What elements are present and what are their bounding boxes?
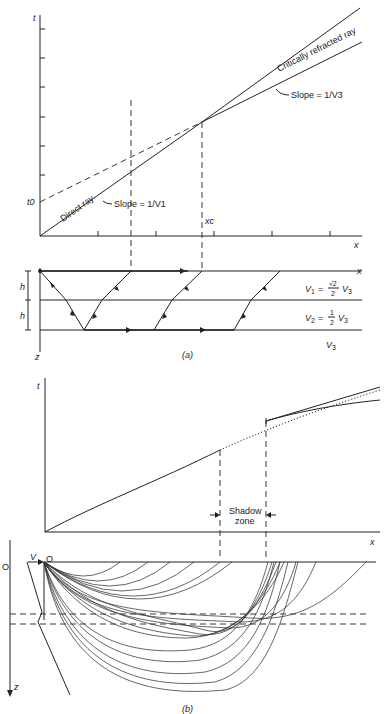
first-arrival-curve: [45, 450, 220, 532]
origin-source-label: O: [46, 554, 53, 564]
svg-text:3: 3: [348, 288, 352, 295]
svg-text:√2: √2: [329, 280, 337, 287]
layer-2-velocity: V2 = 1 2 V3: [305, 309, 348, 326]
slope-v1-label: Slope = 1/V1: [114, 199, 166, 209]
shadow-zone-label-1: Shadow: [229, 506, 262, 516]
panel-a-caption: (a): [182, 350, 193, 360]
svg-text:2: 2: [331, 290, 335, 297]
layer-3-velocity: V3: [326, 340, 336, 351]
x-axis-label-b: x: [369, 537, 375, 547]
thickness-label-1: h: [20, 282, 25, 292]
layer-1-velocity: V1 = √2 2 V3: [305, 280, 352, 297]
x-axis-label: x: [353, 240, 359, 250]
crossover-distance-label: xc: [204, 216, 215, 226]
svg-text:1: 1: [330, 309, 334, 316]
section-x-label: x: [356, 266, 362, 276]
direct-ray-label: Direct ray: [58, 193, 96, 224]
seismic-refraction-figure: t x t0 Direct ray Critically refracted r…: [0, 0, 389, 714]
svg-text:=: =: [318, 313, 323, 323]
panel-a-traveltime-graph: t x t0 Direct ray Critically refracted r…: [27, 8, 362, 272]
refracted-extension-dashed: [40, 122, 202, 202]
t-axis-label: t: [33, 13, 36, 23]
depth-z-label: z: [13, 682, 19, 692]
panel-b-raypath-section: z O O V: [2, 540, 376, 714]
velocity-label: V: [30, 552, 37, 562]
svg-text:1: 1: [311, 288, 315, 295]
section-z-label: z: [34, 352, 40, 362]
panel-b-caption: (b): [182, 704, 193, 714]
dotted-continuation: [220, 390, 380, 450]
slope-v3-label: Slope = 1/V3: [291, 90, 343, 100]
svg-text:2: 2: [330, 319, 334, 326]
shallow-ray-family: [44, 562, 232, 599]
svg-text:2: 2: [311, 317, 315, 324]
t-axis-ticks: [40, 29, 45, 175]
svg-text:3: 3: [344, 317, 348, 324]
slope-v3-leader: [276, 89, 289, 95]
intercept-time-label: t0: [27, 197, 35, 207]
critically-refracted-ray-label: Critically refracted ray: [275, 25, 358, 74]
panel-b-traveltime-graph: t x Shadow zone: [37, 378, 380, 560]
slope-v1-leader: [103, 201, 112, 204]
origin-left-label: O: [2, 562, 9, 572]
x-axis-ticks: [98, 231, 330, 236]
t-axis-label-b: t: [37, 381, 40, 391]
lvz-ray-family: [44, 562, 366, 638]
panel-a-layer-section: x z h h V1 = √2: [20, 266, 362, 362]
svg-text:=: =: [318, 284, 323, 294]
shadow-zone-label-2: zone: [235, 516, 255, 526]
svg-text:3: 3: [332, 344, 336, 351]
branch-lower: [266, 400, 380, 421]
thickness-label-2: h: [20, 311, 25, 321]
refracted-ray-line: [202, 42, 362, 122]
